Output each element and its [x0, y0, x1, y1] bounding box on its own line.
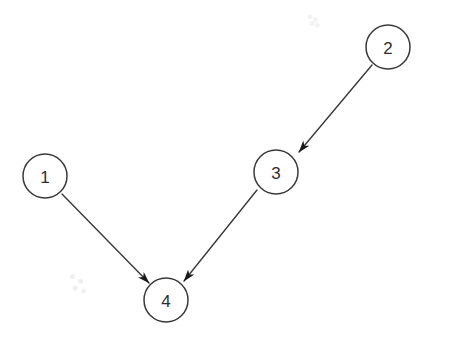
graph-edge-1-to-4 — [62, 194, 149, 283]
nodes-layer: 1234 — [23, 25, 410, 322]
node-label-4: 4 — [161, 292, 170, 311]
graph-node-4: 4 — [144, 278, 188, 322]
diagram-canvas: 1234 — [0, 0, 455, 342]
graph-svg: 1234 — [0, 0, 455, 342]
graph-node-1: 1 — [23, 154, 67, 198]
node-label-1: 1 — [40, 168, 49, 187]
graph-edge-2-to-3 — [299, 65, 372, 152]
graph-edge-3-to-4 — [184, 190, 257, 281]
node-label-3: 3 — [271, 164, 280, 183]
edges-layer — [62, 65, 372, 283]
graph-node-2: 2 — [366, 25, 410, 69]
graph-node-3: 3 — [254, 150, 298, 194]
node-label-2: 2 — [383, 39, 392, 58]
